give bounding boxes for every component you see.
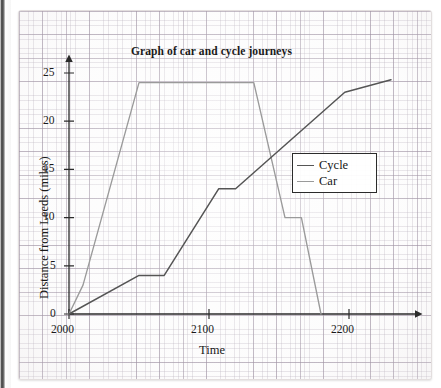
y-tick-label-0: 0 <box>50 307 56 319</box>
plot-area <box>19 11 431 379</box>
graph-paper-sheet: Graph of car and cycle journeys 25 20 15… <box>18 10 432 380</box>
x-tick-label-2200: 2200 <box>331 323 354 335</box>
legend[interactable]: Cycle Car <box>292 153 377 193</box>
legend-swatch-cycle-icon <box>297 165 314 166</box>
page-root: Graph of car and cycle journeys 25 20 15… <box>0 0 441 388</box>
chart-title: Graph of car and cycle journeys <box>131 45 292 57</box>
legend-item-cycle[interactable]: Cycle <box>293 157 376 173</box>
y-tick-label-20: 20 <box>43 114 55 126</box>
series-line-car <box>69 83 321 314</box>
x-tick-label-2000: 2000 <box>51 323 74 335</box>
legend-label-cycle: Cycle <box>319 159 348 172</box>
y-axis-title: Distance from Leeds (miles) <box>37 156 52 299</box>
x-tick-label-2100: 2100 <box>191 323 214 335</box>
legend-label-car: Car <box>319 175 337 188</box>
book-gutter-highlight <box>5 0 11 388</box>
x-axis-title: Time <box>199 343 225 358</box>
legend-item-car[interactable]: Car <box>293 173 376 189</box>
series-line-cycle <box>69 80 391 314</box>
legend-swatch-car-icon <box>297 181 314 182</box>
y-tick-label-25: 25 <box>43 66 55 78</box>
